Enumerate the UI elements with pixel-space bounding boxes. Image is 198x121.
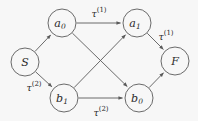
- node-label-S: S: [21, 56, 29, 69]
- edge-b0-F: [149, 73, 163, 88]
- label-b1-b0: τ(2): [93, 105, 108, 118]
- edge-S-a0: [35, 35, 51, 52]
- node-label-F: F: [170, 55, 179, 68]
- graph-svg: Sa0a1b1b0F τ(1)τ(1)τ(2)τ(2): [0, 0, 198, 121]
- label-a0-a1: τ(1): [91, 6, 106, 19]
- label-S-b1: τ(2): [26, 80, 41, 93]
- diagram-canvas: Sa0a1b1b0F τ(1)τ(1)τ(2)τ(2): [0, 0, 198, 121]
- label-a1-F: τ(1): [158, 29, 173, 42]
